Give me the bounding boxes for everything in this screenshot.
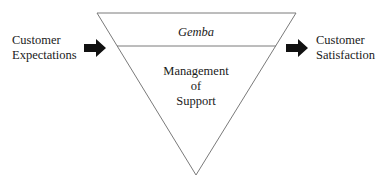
output-label-line-2: Satisfaction xyxy=(316,48,375,63)
input-label-line-1: Customer xyxy=(12,33,77,48)
management-label-line-2: of xyxy=(146,79,246,94)
input-arrow-icon xyxy=(84,39,106,57)
management-label-line-3: Support xyxy=(146,94,246,109)
output-label-line-1: Customer xyxy=(316,33,375,48)
management-label-line-1: Management xyxy=(146,64,246,79)
output-arrow-icon xyxy=(286,39,308,57)
output-label: Customer Satisfaction xyxy=(316,33,375,63)
gemba-label: Gemba xyxy=(146,25,246,40)
diagram-canvas: Customer Expectations Customer Satisfact… xyxy=(0,0,384,181)
input-label-line-2: Expectations xyxy=(12,48,77,63)
input-label: Customer Expectations xyxy=(12,33,77,63)
management-of-support-label: Management of Support xyxy=(146,64,246,109)
